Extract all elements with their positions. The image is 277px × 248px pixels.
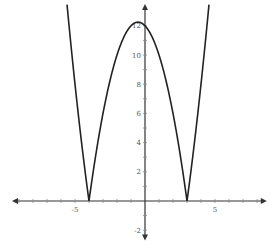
y-tick-label: 10 <box>132 52 141 60</box>
x-tick-label: 5 <box>213 206 217 214</box>
y-axis-tick-labels: 12108642-2 <box>132 22 141 234</box>
y-axis-down-arrow-icon <box>142 234 148 240</box>
function-graph: -55 12108642-2 <box>0 0 277 248</box>
x-tick-label: -5 <box>72 206 79 214</box>
y-tick-label: 8 <box>137 81 141 89</box>
y-tick-label: 4 <box>137 139 142 147</box>
x-axis-left-arrow-icon <box>12 198 18 204</box>
x-axis <box>12 198 267 204</box>
y-axis <box>142 4 148 241</box>
x-axis-right-arrow-icon <box>261 198 267 204</box>
y-axis-up-arrow-icon <box>142 4 148 10</box>
y-tick-label: 2 <box>137 168 141 176</box>
y-tick-label: 6 <box>137 110 142 118</box>
y-tick-label: -2 <box>134 227 141 235</box>
